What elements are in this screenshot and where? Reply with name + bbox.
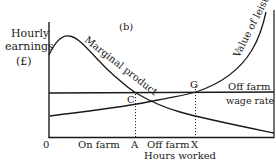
region-label-on-farm: On farm: [78, 140, 120, 150]
panel-label: (b): [119, 22, 133, 32]
x-axis-title: Hours worked: [144, 151, 216, 160]
tick-label-a: A: [131, 140, 138, 150]
point-c-label: C: [127, 95, 135, 105]
marginal-product-label: Marginal product: [83, 34, 160, 97]
labour-allocation-diagram: Marginal product Value of leisure: [0, 0, 276, 160]
y-axis-label-line3: (£): [16, 56, 32, 67]
wage-rate-line: [49, 92, 274, 93]
origin-label: 0: [43, 140, 49, 150]
region-label-off-farm: Off farm: [147, 140, 189, 150]
wage-rate-label-line1: Off farm: [228, 82, 270, 92]
tick-label-x: X: [191, 140, 198, 150]
y-axis-label-line1: Hourly: [11, 28, 49, 39]
value-of-leisure-label: Value of leisure: [231, 0, 276, 60]
point-g-label: G: [190, 80, 198, 90]
y-axis-label-line2: earnings: [5, 41, 54, 52]
wage-rate-label-line2: wage rate: [226, 96, 274, 106]
